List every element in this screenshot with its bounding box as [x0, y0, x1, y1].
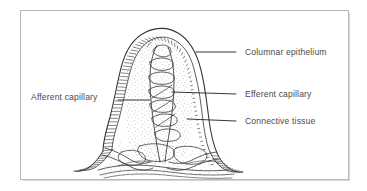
villus-drawing	[74, 28, 243, 182]
label-efferent-capillary: Efferent capillary	[245, 89, 312, 100]
label-afferent-capillary: Afferent capillary	[31, 92, 98, 103]
label-columnar-epithelium: Columnar epithelium	[245, 47, 327, 58]
leader-connective-tissue	[187, 119, 236, 121]
figure-root: Columnar epithelium Efferent capillary C…	[0, 0, 367, 191]
label-connective-tissue: Connective tissue	[245, 116, 315, 127]
